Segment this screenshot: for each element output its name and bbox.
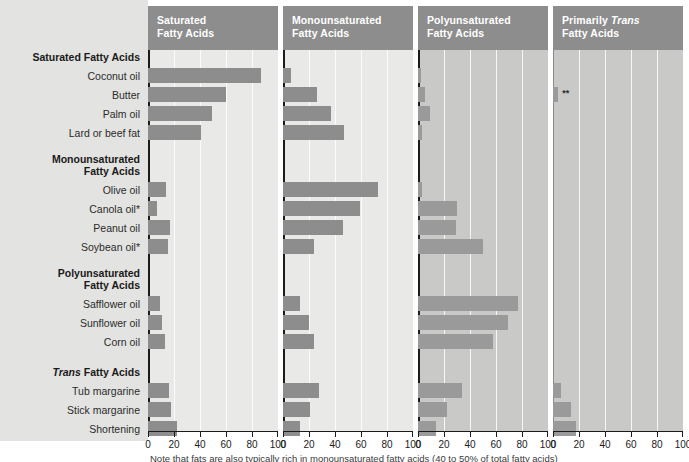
bar-polyunsaturated-palm-oil (418, 106, 430, 121)
bar-monounsaturated-soybean-oil (283, 239, 314, 254)
x-axis-ticklabel-0: 0 (280, 439, 286, 450)
bar-saturated-safflower-oil (148, 296, 160, 311)
x-axis-tick-0 (283, 431, 284, 437)
x-axis-ticklabels-saturated: 020406080100 (148, 439, 294, 453)
gridline-20 (579, 50, 580, 431)
x-axis-tick-60 (496, 431, 497, 437)
bar-monounsaturated-butter (283, 87, 317, 102)
group-label-fatty-acids: Fatty Acids (84, 280, 140, 291)
panel-title-polyunsaturated: PolyunsaturatedFatty Acids (418, 6, 548, 50)
row-label-shortening: Shortening (89, 424, 140, 435)
bar-polyunsaturated-peanut-oil (418, 220, 456, 235)
x-axis-ticklabel-40: 40 (329, 439, 340, 450)
bar-monounsaturated-sunflower-oil (283, 315, 309, 330)
x-axis-rule (418, 431, 548, 432)
x-axis-tick-20 (174, 431, 175, 437)
x-axis-ticklabel-60: 60 (355, 439, 366, 450)
x-axis-ticklabel-20: 20 (573, 439, 584, 450)
x-axis-tick-80 (522, 431, 523, 437)
x-axis-tick-0 (418, 431, 419, 437)
row-label-olive-oil: Olive oil (103, 185, 140, 196)
row-label-stick-margarine: Stick margarine (67, 405, 140, 416)
bar-trans-butter (553, 87, 558, 102)
x-axis-monounsaturated (283, 431, 413, 439)
x-axis-ticklabels-polyunsaturated: 020406080100 (418, 439, 564, 453)
x-axis-tick-100 (682, 431, 683, 437)
panel-title-monounsaturated: MonounsaturatedFatty Acids (283, 6, 413, 50)
gridline-60 (226, 50, 227, 431)
gridline-100 (683, 50, 684, 431)
x-axis-ticklabel-80: 80 (651, 439, 662, 450)
row-label-sunflower-oil: Sunflower oil (80, 318, 140, 329)
italic-term: Trans (52, 366, 80, 378)
bar-annotation-asterisks: ** (562, 88, 569, 98)
bar-polyunsaturated-safflower-oil (418, 296, 518, 311)
bar-polyunsaturated-lard-or-beef-fat (418, 125, 422, 140)
bar-monounsaturated-canola-oil (283, 201, 360, 216)
bar-saturated-olive-oil (148, 182, 166, 197)
bar-polyunsaturated-olive-oil (418, 182, 422, 197)
bar-polyunsaturated-stick-margarine (418, 402, 447, 417)
x-axis-ticklabel-60: 60 (490, 439, 501, 450)
bar-monounsaturated-lard-or-beef-fat (283, 125, 344, 140)
x-axis-ticklabel-60: 60 (220, 439, 231, 450)
row-label-coconut-oil: Coconut oil (87, 71, 140, 82)
x-axis-tick-0 (553, 431, 554, 437)
group-label-trans-fatty-acids: Trans Fatty Acids (52, 367, 140, 378)
x-axis-tick-0 (148, 431, 149, 437)
bar-monounsaturated-peanut-oil (283, 220, 343, 235)
row-label-soybean-oil: Soybean oil* (81, 242, 140, 253)
x-axis-ticklabel-40: 40 (599, 439, 610, 450)
x-axis-ticklabel-80: 80 (516, 439, 527, 450)
panel-title-trans: Primarily TransFatty Acids (553, 6, 683, 50)
gridline-60 (361, 50, 362, 431)
x-axis-tick-80 (252, 431, 253, 437)
bar-trans-tub-margarine (553, 383, 561, 398)
bar-monounsaturated-stick-margarine (283, 402, 310, 417)
panel-saturated: SaturatedFatty Acids020406080100 (148, 0, 278, 441)
panel-monounsaturated: MonounsaturatedFatty Acids020406080100 (283, 0, 413, 441)
bar-saturated-canola-oil (148, 201, 157, 216)
row-label-peanut-oil: Peanut oil (93, 223, 140, 234)
x-axis-rule (283, 431, 413, 432)
chart-footnote: Note that fats are also typically rich i… (150, 453, 680, 462)
bar-saturated-sunflower-oil (148, 315, 162, 330)
x-axis-ticklabel-40: 40 (464, 439, 475, 450)
x-axis-ticklabel-40: 40 (194, 439, 205, 450)
x-axis-tick-20 (579, 431, 580, 437)
x-axis-tick-20 (444, 431, 445, 437)
y-axis-line-trans (553, 50, 554, 431)
row-label-safflower-oil: Safflower oil (83, 299, 140, 310)
x-axis-ticklabel-0: 0 (550, 439, 556, 450)
x-axis-ticklabel-60: 60 (625, 439, 636, 450)
x-axis-ticklabel-20: 20 (438, 439, 449, 450)
row-label-canola-oil: Canola oil* (89, 204, 140, 215)
gridline-60 (631, 50, 632, 431)
x-axis-tick-80 (387, 431, 388, 437)
bar-saturated-peanut-oil (148, 220, 170, 235)
bar-trans-stick-margarine (553, 402, 571, 417)
bar-monounsaturated-corn-oil (283, 334, 314, 349)
gridline-100 (278, 50, 279, 431)
x-axis-tick-60 (361, 431, 362, 437)
bar-saturated-tub-margarine (148, 383, 169, 398)
row-label-butter: Butter (112, 90, 140, 101)
x-axis-ticklabels-trans: 020406080100 (553, 439, 689, 453)
bar-polyunsaturated-coconut-oil (418, 68, 421, 83)
bar-monounsaturated-coconut-oil (283, 68, 291, 83)
x-axis-saturated (148, 431, 278, 439)
panel-title-saturated: SaturatedFatty Acids (148, 6, 278, 50)
x-axis-ticklabels-monounsaturated: 020406080100 (283, 439, 429, 453)
x-axis-tick-60 (631, 431, 632, 437)
gridline-60 (496, 50, 497, 431)
group-label-polyunsaturated: Polyunsaturated (58, 268, 140, 279)
x-axis-ticklabel-80: 80 (246, 439, 257, 450)
bar-saturated-soybean-oil (148, 239, 168, 254)
x-axis-tick-80 (657, 431, 658, 437)
bar-saturated-stick-margarine (148, 402, 171, 417)
bar-saturated-butter (148, 87, 226, 102)
gridline-100 (413, 50, 414, 431)
gridline-100 (548, 50, 549, 431)
x-axis-polyunsaturated (418, 431, 548, 439)
panel-trans: Primarily TransFatty Acids**020406080100 (553, 0, 683, 441)
